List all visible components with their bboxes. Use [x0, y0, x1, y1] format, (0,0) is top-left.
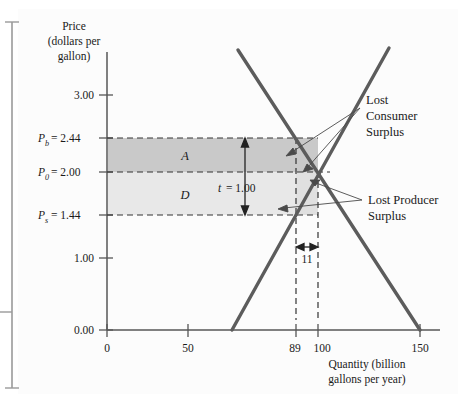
ytick-label-0-00: 0.00: [74, 324, 94, 336]
p0-value: = 2.00: [51, 166, 81, 178]
region-label-a: A: [180, 149, 189, 163]
page-binding-marks: [0, 22, 19, 388]
lost-producer-surplus-line2: Surplus: [368, 209, 406, 223]
ytick-label-1-00: 1.00: [74, 252, 94, 264]
p0-symbol: P: [37, 166, 45, 178]
tax-value: = 1.00: [226, 182, 256, 194]
ytick-label-3-00: 3.00: [74, 89, 94, 101]
xtick-label-50: 50: [182, 342, 194, 354]
lost-producer-surplus-line1: Lost Producer: [368, 193, 439, 207]
pb-subscript: b: [45, 139, 49, 148]
ps-symbol: P: [37, 209, 45, 221]
lost-consumer-surplus-line3: Surplus: [366, 125, 404, 139]
quantity-gap-label: 11: [301, 253, 312, 265]
y-axis-title-line3: gallon): [58, 50, 91, 63]
ps-value: = 1.44: [51, 209, 81, 221]
ps-subscript: s: [45, 216, 48, 225]
figure-root: Price (dollars per gallon) Quantity (bil…: [0, 0, 476, 412]
pb-value: = 2.44: [51, 132, 81, 144]
xtick-label-150: 150: [411, 342, 429, 354]
p0-subscript: 0: [45, 173, 49, 182]
y-axis-title-line2: (dollars per: [48, 35, 101, 48]
lost-consumer-surplus-line2: Consumer: [366, 109, 418, 123]
x-axis-title-line2: gallons per year): [328, 373, 405, 386]
xtick-label-89: 89: [289, 342, 301, 354]
pb-symbol: P: [37, 132, 45, 144]
price-label-pb: P b = 2.44: [37, 132, 81, 148]
xtick-label-0: 0: [104, 342, 110, 354]
tax-incidence-chart: Price (dollars per gallon) Quantity (bil…: [0, 0, 476, 412]
x-axis-title-line1: Quantity (billion: [329, 358, 406, 371]
lost-consumer-surplus-line1: Lost: [366, 93, 389, 107]
quantity-gap-arrow: [296, 244, 318, 251]
price-label-p0: P 0 = 2.00: [37, 166, 81, 182]
price-label-ps: P s = 1.44: [37, 209, 81, 225]
xtick-label-100: 100: [313, 342, 331, 354]
region-label-d: D: [179, 188, 189, 202]
y-axis-title-line1: Price: [62, 20, 86, 32]
